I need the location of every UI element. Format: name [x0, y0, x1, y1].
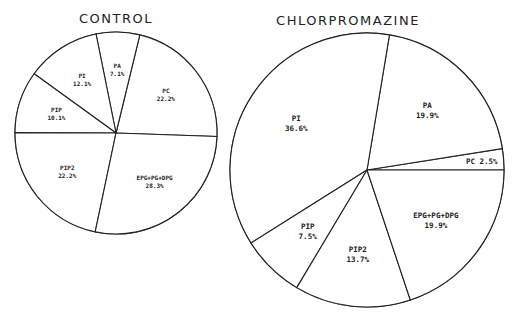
- pie-slice-pa: [367, 35, 502, 170]
- slice-value-label: 22.2%: [157, 95, 175, 102]
- control-title: CONTROL: [79, 11, 153, 26]
- slice-value-label: 7.1%: [110, 70, 125, 77]
- slice-label: PIP: [301, 222, 315, 231]
- slice-value-label: 19.9%: [416, 111, 439, 120]
- slice-value-label: 7.5%: [299, 232, 318, 241]
- slice-value-label: 10.1%: [47, 114, 65, 121]
- pie-charts-figure: CONTROL PC22.2%PA7.1%PI12.1%PIP10.1%PIP2…: [0, 0, 516, 312]
- slice-label: PI: [292, 114, 301, 123]
- slice-label: PC 2.5%: [466, 157, 498, 166]
- slice-value-label: 22.2%: [58, 172, 76, 179]
- control-pie: CONTROL PC22.2%PA7.1%PI12.1%PIP10.1%PIP2…: [15, 11, 217, 234]
- slice-value-label: 13.7%: [347, 255, 370, 264]
- slice-label: PIP: [51, 106, 62, 113]
- chlorpromazine-title: CHLORPROMAZINE: [276, 13, 420, 28]
- slice-value-label: 36.6%: [285, 124, 308, 133]
- slice-label: PA: [423, 101, 433, 110]
- slice-label: PC: [162, 87, 170, 94]
- slice-value-label: 19.9%: [425, 221, 448, 230]
- slice-label: PI: [78, 72, 86, 79]
- slice-label: EPG+PG+DPG: [137, 174, 174, 181]
- slice-label: PIP2: [60, 164, 75, 171]
- slice-label: PA: [114, 62, 122, 69]
- slice-value-label: 12.1%: [73, 80, 91, 87]
- slice-value-label: 28.3%: [146, 182, 164, 189]
- slice-label: PIP2: [349, 245, 367, 254]
- chlorpromazine-pie: CHLORPROMAZINE PC 2.5%PA19.9%PI36.6%PIP7…: [230, 13, 504, 307]
- slice-label: EPG+PG+DPG: [413, 211, 459, 220]
